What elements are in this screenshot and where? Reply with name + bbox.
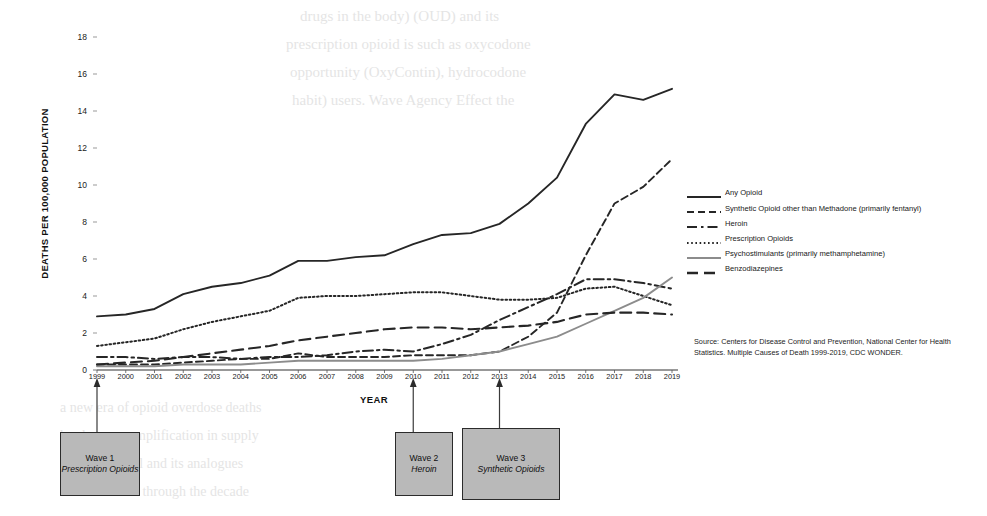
y-axis-tick-label: 8 (65, 217, 87, 227)
series-line (97, 159, 672, 364)
legend-line-swatch (686, 234, 722, 245)
legend-item: Synthetic Opioid other than Methadone (p… (686, 201, 986, 216)
wave-subtitle: Heroin (411, 464, 436, 475)
y-axis-tick-label: 16 (65, 69, 87, 79)
wave-callout-1: Wave 1Prescription Opioids (60, 432, 140, 496)
wave-title: Wave 2 (410, 453, 439, 464)
wave-callout-2: Wave 2Heroin (395, 432, 453, 496)
y-axis-title: DEATHS PER 100,000 POPULATION (39, 84, 50, 304)
legend-line-swatch (686, 218, 722, 229)
legend-label: Psychostimulants (primarily methamphetam… (725, 250, 885, 258)
series-line (97, 287, 672, 346)
legend-label: Heroin (725, 220, 747, 228)
series-line (97, 278, 672, 367)
legend-item: Any Opioid (686, 186, 986, 201)
series-line (97, 89, 672, 317)
x-axis-title: YEAR (360, 394, 388, 405)
legend-item: Benzodiazepines (686, 262, 986, 277)
legend-item: Heroin (686, 216, 986, 231)
legend-line-swatch (686, 264, 722, 275)
chart-legend: Any OpioidSynthetic Opioid other than Me… (686, 186, 986, 277)
legend-line-swatch (686, 249, 722, 260)
legend-item: Prescription Opioids (686, 232, 986, 247)
y-axis-tick-label: 4 (65, 291, 87, 301)
series-line (97, 279, 672, 359)
wave-subtitle: Prescription Opioids (62, 464, 139, 475)
wave-callout-3: Wave 3Synthetic Opioids (462, 428, 560, 500)
legend-label: Any Opioid (725, 189, 762, 197)
x-axis-tick-label: 2019 (655, 372, 689, 381)
y-axis-tick-label: 2 (65, 328, 87, 338)
wave-title: Wave 3 (497, 453, 526, 464)
figure-canvas: drugs in the body) (OUD) and itsprescrip… (0, 0, 987, 516)
y-axis-tick-label: 14 (65, 106, 87, 116)
y-axis-tick-label: 12 (65, 143, 87, 153)
wave-subtitle: Synthetic Opioids (478, 464, 545, 475)
legend-line-swatch (686, 203, 722, 214)
legend-label: Benzodiazepines (725, 265, 783, 273)
y-axis-tick-label: 10 (65, 180, 87, 190)
wave-title: Wave 1 (86, 453, 115, 464)
source-citation: Source: Centers for Disease Control and … (694, 337, 966, 358)
y-axis-tick-label: 18 (65, 32, 87, 42)
legend-label: Synthetic Opioid other than Methadone (p… (725, 205, 921, 213)
legend-item: Psychostimulants (primarily methamphetam… (686, 247, 986, 262)
legend-label: Prescription Opioids (725, 235, 793, 243)
legend-line-swatch (686, 188, 722, 199)
y-axis-tick-label: 6 (65, 254, 87, 264)
